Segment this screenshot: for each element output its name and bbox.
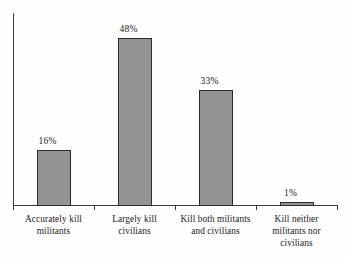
bar-value-label: 48%: [105, 24, 152, 35]
x-axis-category-label: Accurately kill militants: [13, 213, 94, 237]
x-axis-tick: [337, 206, 338, 210]
bar-value-label: 33%: [186, 76, 233, 87]
x-axis-tick: [175, 206, 176, 210]
x-axis-tick: [13, 206, 14, 210]
category-label-line: and civilians: [173, 225, 258, 237]
bar-largely-kill-civilians: [118, 38, 152, 206]
x-axis-category-label: Largely kill civilians: [94, 213, 175, 237]
x-axis-tick: [94, 206, 95, 210]
bar-value-label: 1%: [267, 188, 314, 199]
bar-kill-neither-militants-nor-civilians: [280, 202, 314, 206]
bar-accurately-kill-militants: [37, 150, 71, 206]
x-axis-category-label: Kill both militants and civilians: [173, 213, 258, 237]
category-label-line: civilians: [256, 237, 337, 249]
category-label-line: Kill both militants: [173, 213, 258, 225]
bar-value-label: 16%: [24, 136, 71, 147]
category-label-line: Kill neither: [256, 213, 337, 225]
category-label-line: Accurately kill: [13, 213, 94, 225]
bar-chart: 16% 48% 33% 1% Accurately kill militants…: [0, 0, 346, 260]
x-axis-tick: [256, 206, 257, 210]
category-label-line: militants nor: [256, 225, 337, 237]
bar-kill-both-militants-and-civilians: [199, 90, 233, 206]
category-label-line: militants: [13, 225, 94, 237]
category-label-line: civilians: [94, 225, 175, 237]
category-label-line: Largely kill: [94, 213, 175, 225]
x-axis-category-label: Kill neither militants nor civilians: [256, 213, 337, 249]
plot-area: [13, 13, 338, 206]
